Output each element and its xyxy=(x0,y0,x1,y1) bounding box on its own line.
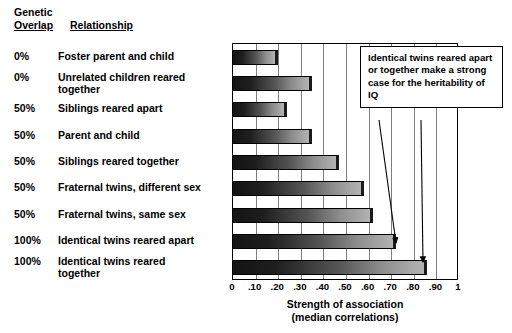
header-overlap-label: Overlap xyxy=(14,19,70,31)
bar xyxy=(233,260,427,275)
relationship-label: Foster parent and child xyxy=(58,50,174,63)
table-row: 0%Foster parent and child xyxy=(14,50,232,63)
chart-page: Genetic Overlap Relationship 0%Foster pa… xyxy=(0,0,512,333)
annotation-box: Identical twins reared apart or together… xyxy=(360,46,503,108)
table-row: 50%Siblings reared together xyxy=(14,155,232,168)
bar xyxy=(233,181,364,196)
header-relationship-label: Relationship xyxy=(70,19,133,31)
relationship-label: Unrelated children reared together xyxy=(58,71,185,95)
row-label-list: 0%Foster parent and child0%Unrelated chi… xyxy=(14,43,232,280)
header-columns: Overlap Relationship xyxy=(14,19,229,31)
bar xyxy=(233,155,339,170)
x-tick-label: 1 xyxy=(455,281,460,292)
x-tick-label: .70 xyxy=(384,281,397,292)
bar xyxy=(233,102,287,117)
x-tick-label: .20 xyxy=(271,281,284,292)
bar xyxy=(233,208,373,223)
genetic-overlap-value: 50% xyxy=(14,208,58,221)
x-tick-label: .10 xyxy=(248,281,261,292)
genetic-overlap-value: 50% xyxy=(14,155,58,168)
table-row: 50%Siblings reared apart xyxy=(14,102,232,115)
table-row: 100%Identical twins reared apart xyxy=(14,234,232,247)
genetic-overlap-value: 0% xyxy=(14,71,58,84)
x-tick-label: .40 xyxy=(316,281,329,292)
genetic-overlap-value: 100% xyxy=(14,234,58,247)
relationship-label: Fraternal twins, same sex xyxy=(58,208,186,221)
x-tick-label: 0 xyxy=(229,281,234,292)
x-axis-title-sub: (median correlations) xyxy=(232,311,458,324)
x-tick-label: .30 xyxy=(293,281,306,292)
x-axis-title: Strength of association (median correlat… xyxy=(232,298,458,323)
bar xyxy=(233,76,312,91)
genetic-overlap-value: 0% xyxy=(14,50,58,63)
x-tick-label: .80 xyxy=(406,281,419,292)
x-axis-title-main: Strength of association xyxy=(287,298,404,310)
genetic-overlap-value: 50% xyxy=(14,181,58,194)
bar xyxy=(233,234,396,249)
table-row: 100%Identical twins reared together xyxy=(14,255,232,279)
x-axis-tick-labels: 0.10.20.30.40.50.60.70.80.901 xyxy=(232,281,458,295)
table-row: 50%Parent and child xyxy=(14,129,232,142)
header-genetic-label: Genetic xyxy=(14,6,229,18)
relationship-label: Parent and child xyxy=(58,129,140,142)
relationship-label: Siblings reared apart xyxy=(58,102,162,115)
genetic-overlap-value: 50% xyxy=(14,102,58,115)
relationship-label: Identical twins reared together xyxy=(58,255,165,279)
relationship-label: Fraternal twins, different sex xyxy=(58,181,201,194)
table-header: Genetic Overlap Relationship xyxy=(14,6,229,31)
genetic-overlap-value: 100% xyxy=(14,255,58,268)
relationship-label: Identical twins reared apart xyxy=(58,234,194,247)
relationship-label: Siblings reared together xyxy=(58,155,179,168)
table-row: 0%Unrelated children reared together xyxy=(14,71,232,95)
table-row: 50%Fraternal twins, different sex xyxy=(14,181,232,194)
x-tick-label: .50 xyxy=(338,281,351,292)
bar xyxy=(233,129,312,144)
table-row: 50%Fraternal twins, same sex xyxy=(14,208,232,221)
bar xyxy=(233,50,278,65)
x-tick-label: .60 xyxy=(361,281,374,292)
x-tick-label: .90 xyxy=(429,281,442,292)
genetic-overlap-value: 50% xyxy=(14,129,58,142)
